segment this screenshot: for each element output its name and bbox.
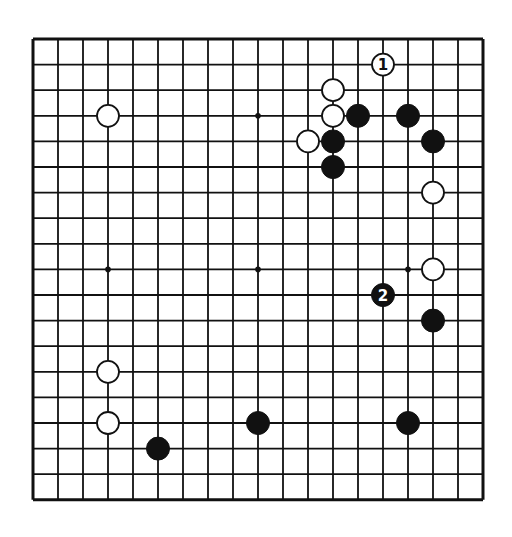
white-stone xyxy=(297,130,319,152)
black-stone xyxy=(247,412,270,435)
white-stone xyxy=(97,361,119,383)
white-stone xyxy=(97,105,119,127)
stones-layer: 12 xyxy=(97,54,445,461)
white-stone xyxy=(322,79,344,101)
star-point xyxy=(255,267,261,273)
black-stone: 2 xyxy=(372,284,395,307)
star-point xyxy=(105,267,111,273)
white-stone xyxy=(97,412,119,434)
white-stone xyxy=(422,182,444,204)
white-stone xyxy=(422,258,444,280)
black-stone xyxy=(322,130,345,153)
black-stone xyxy=(322,156,345,179)
black-stone xyxy=(422,130,445,153)
star-point xyxy=(255,113,261,119)
move-number-label: 1 xyxy=(378,56,388,74)
white-stone: 1 xyxy=(372,54,394,76)
black-stone xyxy=(147,437,170,460)
star-point xyxy=(405,267,411,273)
black-stone xyxy=(422,309,445,332)
black-stone xyxy=(347,104,370,127)
move-number-label: 2 xyxy=(378,287,388,305)
black-stone xyxy=(397,104,420,127)
white-stone xyxy=(322,105,344,127)
black-stone xyxy=(397,412,420,435)
go-board: 12 xyxy=(0,0,512,537)
